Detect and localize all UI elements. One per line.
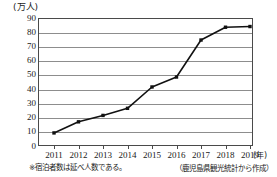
y-tick-label: 40 (2, 85, 36, 94)
x-tick-mark (201, 146, 202, 149)
data-point-marker (77, 120, 80, 123)
x-tick-mark (79, 146, 80, 149)
data-point-marker (175, 75, 178, 78)
y-tick-label: 30 (2, 99, 36, 108)
y-tick-label: 60 (2, 56, 36, 65)
y-axis-tick-labels: 0102030405060708090 (0, 0, 36, 177)
data-point-marker (199, 38, 202, 41)
x-tick-mark (152, 146, 153, 149)
x-axis-unit-label: (年) (253, 151, 267, 161)
series-markers (52, 25, 251, 135)
data-point-marker (150, 85, 153, 88)
y-tick-label: 70 (2, 42, 36, 51)
data-point-marker (52, 131, 55, 134)
x-tick-mark (226, 146, 227, 149)
data-point-marker (224, 26, 227, 29)
data-point-marker (248, 25, 251, 28)
source-note: （鹿児島県観光統計から作成） (175, 164, 273, 174)
x-tick-mark (103, 146, 104, 149)
x-tick-mark (128, 146, 129, 149)
y-tick-label: 0 (2, 142, 36, 151)
y-tick-label: 10 (2, 127, 36, 136)
x-tick-mark (54, 146, 55, 149)
x-tick-mark (250, 146, 251, 149)
series-line (54, 27, 250, 133)
y-tick-label: 80 (2, 28, 36, 37)
line-chart-figure: (万人) 0102030405060708090 201120122013201… (0, 0, 277, 177)
data-series-layer (38, 18, 253, 146)
y-tick-label: 90 (2, 14, 36, 23)
y-tick-label: 50 (2, 70, 36, 79)
x-tick-mark (177, 146, 178, 149)
data-point-marker (101, 114, 104, 117)
y-tick-label: 20 (2, 113, 36, 122)
footnote-text: ※宿泊者数は延べ人数である。 (29, 163, 126, 173)
data-point-marker (126, 107, 129, 110)
